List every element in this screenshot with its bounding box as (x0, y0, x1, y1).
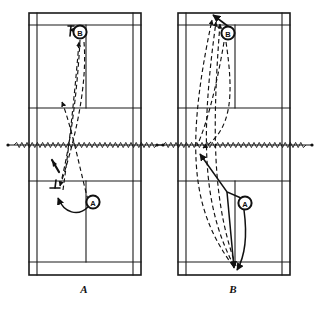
badminton-tactics-figure: B A (0, 0, 319, 311)
player-b-letter: B (225, 30, 231, 39)
player-marker-a-panel-b: A (238, 196, 251, 209)
player-marker-a-panel-a: A (86, 195, 99, 208)
panel-a-caption: A (69, 283, 99, 295)
player-marker-b-panel-a: B (73, 25, 86, 38)
panel-b-caption: B (218, 283, 248, 295)
player-a-letter: A (90, 199, 96, 208)
player-a-letter: A (242, 200, 248, 209)
player-marker-b-panel-b: B (221, 26, 234, 39)
canvas-background (0, 0, 319, 311)
player-b-letter: B (77, 29, 83, 38)
